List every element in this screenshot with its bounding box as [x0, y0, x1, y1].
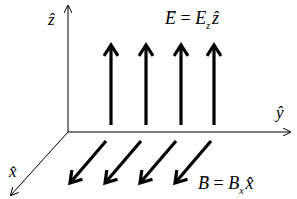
b-field-arrow: [140, 141, 176, 183]
b-unit-vector: x̂: [246, 173, 254, 193]
x-axis: [11, 132, 68, 195]
b-field-arrow: [70, 141, 106, 183]
x-axis-label: x̂: [9, 163, 17, 180]
e-rhs-base: E: [195, 8, 206, 28]
electric-field-arrows: [111, 45, 214, 125]
b-rhs-sub: x: [239, 185, 243, 196]
b-field-arrow: [105, 141, 141, 183]
magnetic-field-label: → B = Bxx̂: [198, 174, 254, 196]
e-rhs-sub: z: [206, 20, 210, 31]
electric-field-label: → E = Ezẑ: [165, 9, 219, 31]
y-axis-label: ŷ: [276, 104, 284, 121]
e-unit-vector: ẑ: [212, 8, 219, 28]
field-diagram: [0, 0, 297, 199]
e-vector-arrow-icon: →: [167, 5, 178, 16]
z-axis-label: ẑ: [48, 11, 55, 28]
b-vector-arrow-icon: →: [200, 170, 211, 181]
magnetic-field-arrows: [70, 141, 211, 183]
b-rhs-base: B: [228, 173, 239, 193]
